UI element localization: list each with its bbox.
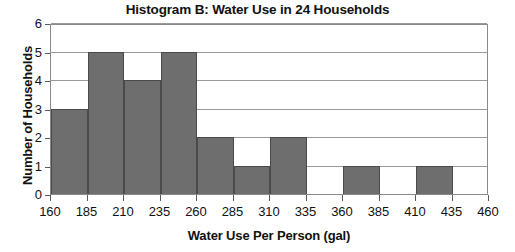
- x-tick-mark: [160, 195, 161, 201]
- histogram-bar: [416, 166, 453, 195]
- x-tick-mark: [379, 195, 380, 201]
- plot-area: [50, 24, 488, 195]
- x-tick-mark: [488, 195, 489, 201]
- histogram-bar: [88, 52, 125, 195]
- y-tick-label: 3: [16, 103, 42, 116]
- x-tick-mark: [50, 195, 51, 201]
- y-tick-mark: [45, 110, 50, 111]
- y-tick-label: 1: [16, 160, 42, 173]
- x-tick-mark: [123, 195, 124, 201]
- y-tick-label: 2: [16, 131, 42, 144]
- x-tick-mark: [196, 195, 197, 201]
- histogram-bar: [270, 137, 307, 194]
- histogram-figure: Histogram B: Water Use in 24 Households …: [0, 0, 515, 252]
- histogram-bar: [51, 109, 88, 195]
- x-tick-mark: [342, 195, 343, 201]
- y-tick-mark: [45, 81, 50, 82]
- x-tick-mark: [415, 195, 416, 201]
- histogram-bar: [197, 137, 234, 194]
- x-axis-title: Water Use Per Person (gal): [50, 228, 488, 243]
- histogram-bar: [161, 52, 198, 195]
- y-tick-mark: [45, 138, 50, 139]
- x-tick-label: 460: [465, 205, 511, 218]
- y-tick-label: 0: [16, 188, 42, 201]
- histogram-bar: [234, 166, 271, 195]
- y-tick-label: 5: [16, 46, 42, 59]
- gridline: [51, 23, 487, 24]
- chart-title: Histogram B: Water Use in 24 Households: [0, 2, 515, 17]
- x-tick-mark: [306, 195, 307, 201]
- y-tick-mark: [45, 24, 50, 25]
- x-tick-mark: [452, 195, 453, 201]
- y-tick-label: 4: [16, 74, 42, 87]
- x-tick-mark: [269, 195, 270, 201]
- histogram-bar: [124, 80, 161, 194]
- y-tick-mark: [45, 167, 50, 168]
- y-tick-mark: [45, 53, 50, 54]
- histogram-bar: [343, 166, 380, 195]
- y-tick-label: 6: [16, 17, 42, 30]
- x-tick-mark: [87, 195, 88, 201]
- x-tick-mark: [233, 195, 234, 201]
